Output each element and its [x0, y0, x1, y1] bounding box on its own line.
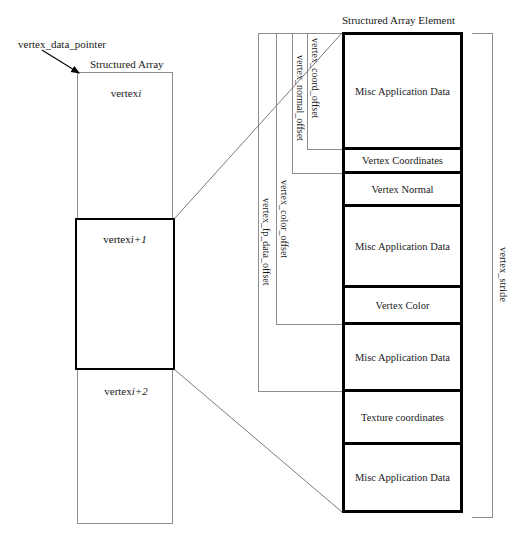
element-row-1-label: Vertex Coordinates: [362, 155, 443, 166]
array-cell-i2-index: i+2: [132, 385, 148, 397]
element-row-misc-application-data-3: Misc Application Data: [345, 325, 460, 392]
element-row-texture-coordinates: Texture coordinates: [345, 392, 460, 445]
element-row-4-label: Vertex Color: [376, 300, 430, 311]
element-row-vertex-color: Vertex Color: [345, 288, 460, 325]
vertex-stride-bracket: [472, 33, 493, 518]
vertex-data-pointer-label: vertex_data_pointer: [18, 38, 106, 50]
structured-array-element-title: Structured Array Element: [342, 14, 455, 26]
diagram-canvas: vertex_data_pointer Structured Array Str…: [0, 0, 529, 539]
structured-array-element-box: Misc Application Data Vertex Coordinates…: [342, 32, 463, 513]
element-row-5-label: Misc Application Data: [355, 352, 450, 363]
array-cell-vertex-i: vertex i: [78, 73, 174, 219]
element-row-0-label: Misc Application Data: [355, 86, 450, 97]
element-row-vertex-normal: Vertex Normal: [345, 174, 460, 207]
vertex-fp-data-offset-label: vertex_fp_data_offset: [261, 198, 272, 286]
vertex-data-pointer-arrow: [42, 50, 79, 73]
array-cell-i1-prefix: vertex: [103, 233, 130, 245]
element-row-vertex-coordinates: Vertex Coordinates: [345, 150, 460, 174]
element-row-misc-application-data-1: Misc Application Data: [345, 35, 460, 150]
element-row-6-label: Texture coordinates: [361, 412, 444, 423]
array-cell-vertex-i-plus-1: vertex i+1: [75, 218, 175, 370]
element-row-2-label: Vertex Normal: [371, 184, 433, 195]
array-cell-i-prefix: vertex: [111, 87, 138, 99]
element-row-7-label: Misc Application Data: [355, 472, 450, 483]
structured-array-title: Structured Array: [90, 58, 164, 70]
element-row-misc-application-data-4: Misc Application Data: [345, 445, 460, 510]
element-row-misc-application-data-2: Misc Application Data: [345, 207, 460, 288]
array-cell-i-index: i: [138, 87, 141, 99]
array-cell-vertex-i-plus-2: vertex i+2: [78, 371, 174, 525]
array-cell-i1-index: i+1: [131, 233, 147, 245]
element-row-3-label: Misc Application Data: [355, 241, 450, 252]
vertex-stride-label: vertex_stride: [498, 247, 509, 302]
array-cell-i2-prefix: vertex: [104, 385, 131, 397]
